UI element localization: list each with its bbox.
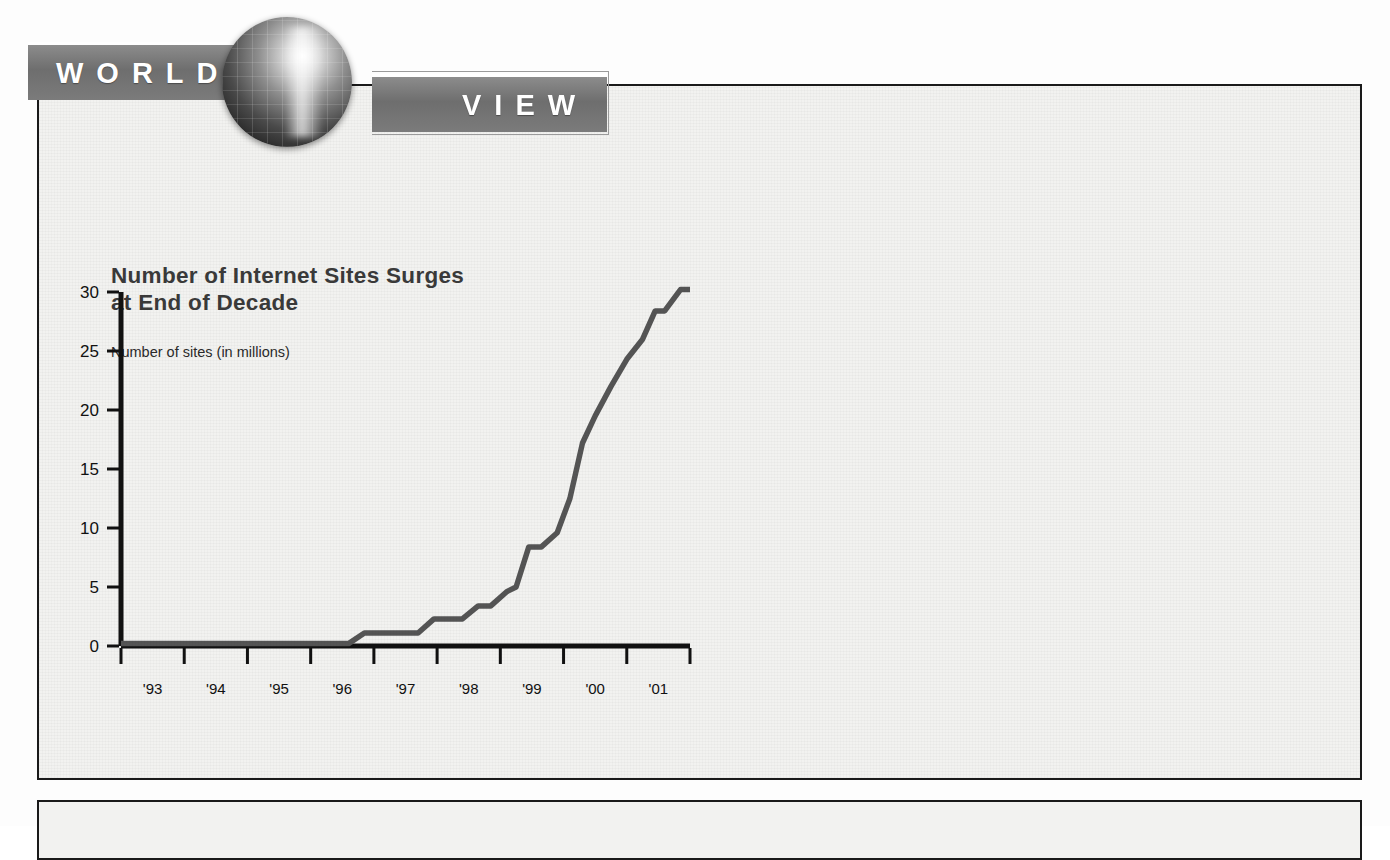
- chart-plot-area: 051015202530 '93'94'95'96'97'98'99'00'01: [39, 86, 1364, 782]
- y-tick-label: 0: [90, 637, 99, 656]
- x-tick-label: '00: [585, 680, 605, 697]
- x-axis-ticks: [121, 648, 690, 664]
- y-tick-label: 30: [80, 283, 99, 302]
- view-banner: VIEW: [372, 74, 607, 132]
- y-axis-ticks: [107, 292, 119, 646]
- x-tick-label: '97: [396, 680, 416, 697]
- x-tick-label: '96: [332, 680, 352, 697]
- y-tick-label: 5: [90, 578, 99, 597]
- x-axis-labels: '93'94'95'96'97'98'99'00'01: [143, 680, 668, 697]
- y-tick-label: 20: [80, 401, 99, 420]
- x-tick-label: '99: [522, 680, 542, 697]
- y-tick-label: 15: [80, 460, 99, 479]
- world-view-header: WORLD VIEW: [0, 0, 700, 160]
- figure-panel: Number of Internet Sites Surges at End o…: [37, 84, 1362, 780]
- x-tick-label: '95: [269, 680, 289, 697]
- data-series-line: [121, 290, 690, 644]
- x-tick-label: '98: [459, 680, 479, 697]
- view-banner-label: VIEW: [462, 88, 588, 121]
- x-tick-label: '01: [649, 680, 669, 697]
- y-tick-label: 25: [80, 342, 99, 361]
- x-tick-label: '94: [206, 680, 226, 697]
- figure-panel-secondary: [37, 800, 1362, 860]
- x-tick-label: '93: [143, 680, 163, 697]
- world-banner-label: WORLD: [56, 56, 231, 89]
- globe-icon: [222, 17, 352, 147]
- line-chart-svg: 051015202530 '93'94'95'96'97'98'99'00'01: [39, 86, 799, 726]
- globe-highlight-icon: [284, 27, 323, 136]
- y-tick-label: 10: [80, 519, 99, 538]
- y-axis-labels: 051015202530: [80, 283, 99, 656]
